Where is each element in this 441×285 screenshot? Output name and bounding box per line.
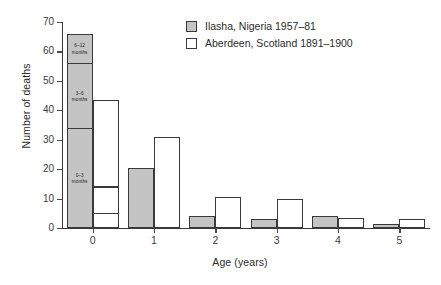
y-tick-label: 50 [43, 76, 54, 86]
segment-divider [94, 213, 118, 214]
x-tick-mark [93, 228, 94, 233]
bar-aberdeen-age-3 [277, 199, 303, 228]
x-tick-mark [215, 228, 216, 233]
x-tick-mark [277, 228, 278, 233]
bar-aberdeen-age-4 [338, 218, 364, 228]
legend-swatch-white [186, 38, 197, 49]
y-tick-mark [57, 169, 62, 170]
x-axis-title: Age (years) [50, 256, 430, 268]
x-tick-label: 3 [274, 235, 280, 246]
bar-aberdeen-age-1 [154, 137, 180, 228]
chart-figure: Number of deaths Age (years) 01020304050… [0, 0, 441, 285]
segment-label: 6–12 months [68, 43, 92, 55]
legend-item-aberdeen: Aberdeen, Scotland 1891–1900 [186, 36, 353, 51]
x-tick-mark [154, 228, 155, 233]
segment-divider [68, 128, 92, 129]
y-tick-label: 10 [43, 194, 54, 204]
y-tick-mark [57, 51, 62, 52]
x-tick-label: 2 [212, 235, 218, 246]
x-tick-mark [338, 228, 339, 233]
x-tick-label: 1 [151, 235, 157, 246]
legend-label-ilasha: Ilasha, Nigeria 1957–81 [205, 21, 316, 32]
y-axis-line [62, 22, 63, 228]
segment-divider [68, 63, 92, 64]
bar-aberdeen-age-2 [215, 197, 241, 228]
y-tick-label: 70 [43, 17, 54, 27]
y-tick-label: 60 [43, 46, 54, 56]
x-tick-label: 4 [335, 235, 341, 246]
bar-ilasha-age-0: 0–3 months3–6 months6–12 months [67, 34, 93, 228]
segment-label: 0–3 months [68, 173, 92, 185]
y-tick-mark [57, 81, 62, 82]
y-tick-label: 0 [48, 223, 54, 233]
bar-ilasha-age-5 [373, 224, 399, 228]
x-tick-label: 0 [90, 235, 96, 246]
y-tick-label: 20 [43, 164, 54, 174]
legend-label-aberdeen: Aberdeen, Scotland 1891–1900 [205, 38, 353, 49]
x-axis-line [62, 228, 430, 229]
legend-swatch-gray [186, 21, 197, 32]
y-tick-mark [57, 110, 62, 111]
chart-legend: Ilasha, Nigeria 1957–81 Aberdeen, Scotla… [186, 19, 353, 53]
segment-label: 3–6 months [68, 90, 92, 102]
bar-aberdeen-age-0 [93, 100, 119, 228]
legend-item-ilasha: Ilasha, Nigeria 1957–81 [186, 19, 353, 34]
segment-divider [94, 186, 118, 187]
bar-ilasha-age-4 [312, 216, 338, 228]
x-tick-label: 5 [396, 235, 402, 246]
y-tick-label: 40 [43, 105, 54, 115]
y-tick-mark [57, 22, 62, 23]
bar-aberdeen-age-5 [399, 219, 425, 228]
bar-ilasha-age-2 [189, 216, 215, 228]
x-tick-mark [399, 228, 400, 233]
y-tick-mark [57, 140, 62, 141]
y-tick-mark [57, 199, 62, 200]
y-tick-label: 30 [43, 135, 54, 145]
y-tick-mark [57, 228, 62, 229]
y-axis-title: Number of deaths [20, 36, 32, 176]
bar-ilasha-age-1 [128, 168, 154, 228]
bar-ilasha-age-3 [251, 219, 277, 228]
